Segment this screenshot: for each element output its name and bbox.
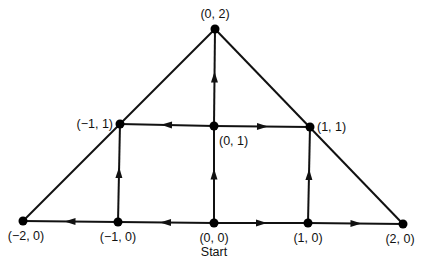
node-label: (1, 0) [293, 231, 322, 245]
node-n_2_0 [399, 220, 408, 229]
node-n_1_0 [304, 219, 313, 228]
graph-diagram: (0, 2)(−1, 1)(0, 1)(1, 1)(−2, 0)(−1, 0)(… [0, 0, 423, 263]
arrowhead-icon [256, 220, 267, 227]
arrowhead-icon [64, 218, 75, 225]
arrowhead-icon [257, 123, 268, 130]
node-n_0_0 [210, 219, 219, 228]
start-label: Start [201, 245, 228, 259]
node-n_0_2 [211, 25, 220, 34]
arrowhead-icon [211, 71, 218, 82]
node-n_m2_0 [19, 217, 28, 226]
arrowhead-icon [160, 219, 171, 226]
node-label: (1, 1) [317, 120, 346, 134]
node-label: (−2, 0) [8, 229, 44, 243]
arrowhead-icon [350, 220, 361, 227]
node-label: (−1, 0) [100, 230, 136, 244]
node-n_0_1 [210, 122, 219, 131]
node-label: (2, 0) [385, 232, 414, 246]
node-n_m1_0 [114, 218, 123, 227]
arrowhead-icon [115, 167, 122, 178]
node-n_1_1 [306, 123, 315, 132]
node-n_m1_1 [116, 120, 125, 129]
node-label: (0, 0) [199, 231, 228, 245]
node-label: (0, 2) [200, 7, 229, 21]
arrowhead-icon [211, 169, 218, 180]
arrowhead-icon [161, 121, 172, 128]
node-label: (0, 1) [219, 134, 248, 148]
arrowhead-icon [305, 169, 312, 180]
node-label: (−1, 1) [77, 117, 113, 131]
